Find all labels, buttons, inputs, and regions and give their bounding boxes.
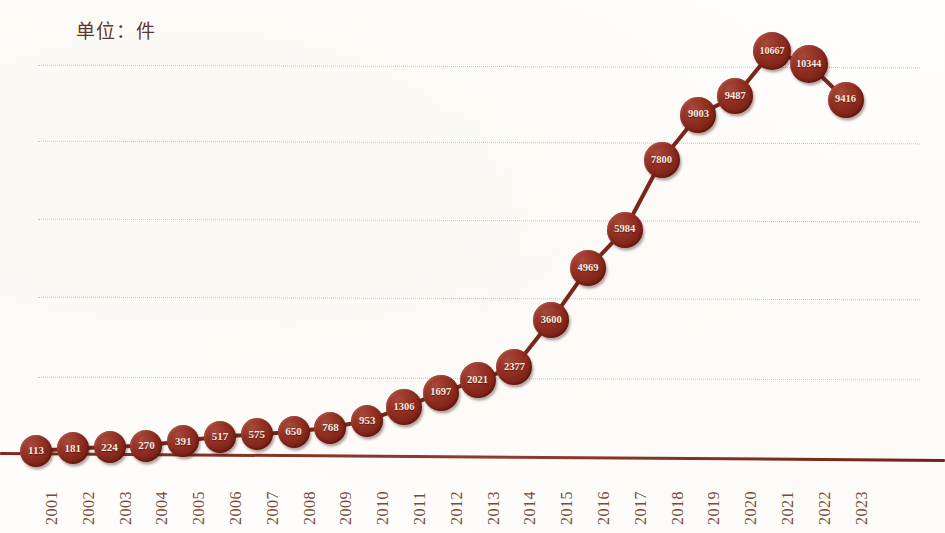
x-axis-tick-label: 2022	[816, 491, 834, 525]
data-point-marker: 7800	[644, 142, 680, 178]
data-point-value: 1306	[394, 402, 415, 413]
data-point-value: 517	[212, 431, 229, 442]
x-axis-tick-label: 2009	[337, 491, 355, 525]
data-point-value: 2021	[467, 375, 488, 386]
data-point-marker: 2021	[460, 362, 496, 398]
data-point-marker: 10344	[790, 45, 828, 83]
x-axis-tick-label: 2003	[117, 491, 135, 525]
data-point-marker: 768	[314, 412, 346, 444]
data-point-value: 9487	[725, 91, 746, 102]
data-point-marker: 3600	[533, 302, 569, 338]
data-point-marker: 181	[57, 432, 89, 464]
unit-note-label: 单位：件	[76, 16, 156, 43]
data-point-value: 10667	[760, 46, 785, 56]
x-axis-tick-label: 2017	[632, 491, 650, 525]
x-axis-tick-label: 2015	[558, 491, 576, 525]
data-point-marker: 10667	[753, 32, 791, 70]
x-axis-tick-label: 2002	[80, 491, 98, 525]
data-point-value: 1697	[430, 387, 451, 398]
data-point-marker: 575	[241, 418, 273, 450]
data-point-value: 391	[175, 436, 192, 447]
data-point-marker: 9416	[828, 82, 864, 118]
x-axis-tick-label: 2004	[153, 491, 171, 525]
x-axis-tick-label: 2010	[374, 491, 392, 525]
x-axis-tick-label: 2007	[264, 491, 282, 525]
data-point-value: 270	[138, 440, 155, 451]
data-point-value: 9416	[835, 94, 856, 105]
data-point-marker: 270	[130, 430, 162, 462]
data-point-value: 113	[28, 445, 44, 456]
data-point-value: 575	[249, 429, 266, 440]
data-point-marker: 953	[351, 405, 383, 437]
chart-container: 1131812242703915175756507689531306169720…	[0, 0, 945, 533]
x-axis-tick-label: 2021	[779, 491, 797, 525]
x-axis-tick-label: 2014	[521, 491, 539, 525]
data-point-marker: 517	[204, 421, 236, 453]
x-axis-tick-label: 2020	[742, 491, 760, 525]
data-point-marker: 650	[278, 416, 310, 448]
data-point-value: 650	[285, 426, 302, 437]
x-axis-tick-label: 2019	[705, 491, 723, 525]
x-axis-tick-label: 2013	[485, 491, 503, 525]
x-axis-tick-label: 2018	[669, 491, 687, 525]
x-axis-tick-label: 2011	[411, 492, 429, 525]
data-point-value: 181	[65, 443, 82, 454]
data-point-marker: 5984	[607, 212, 643, 248]
data-point-marker: 224	[94, 431, 126, 463]
data-point-marker: 1697	[423, 375, 459, 411]
data-point-value: 953	[359, 415, 376, 426]
data-point-value: 5984	[614, 224, 635, 235]
x-axis-tick-label: 2005	[190, 491, 208, 525]
data-point-marker: 9487	[717, 78, 753, 114]
data-point-value: 3600	[541, 315, 562, 326]
data-point-marker: 1306	[386, 389, 422, 425]
data-point-value: 7800	[651, 155, 672, 166]
x-axis-tick-label: 2012	[448, 491, 466, 525]
x-axis-tick-label: 2016	[595, 491, 613, 525]
x-axis-tick-label: 2001	[43, 491, 61, 525]
data-point-value: 768	[322, 422, 339, 433]
x-axis-tick-label: 2008	[301, 491, 319, 525]
data-point-marker: 9003	[680, 97, 716, 133]
data-point-value: 224	[101, 442, 118, 453]
data-point-marker: 391	[167, 425, 199, 457]
data-point-value: 10344	[796, 59, 821, 69]
x-axis-tick-label: 2023	[853, 491, 871, 525]
data-point-value: 4969	[578, 263, 599, 274]
data-point-marker: 113	[20, 435, 52, 467]
data-point-value: 9003	[688, 109, 709, 120]
x-axis-tick-label: 2006	[227, 491, 245, 525]
data-point-marker: 2377	[496, 349, 532, 385]
data-point-marker: 4969	[570, 250, 606, 286]
data-point-value: 2377	[504, 362, 525, 373]
